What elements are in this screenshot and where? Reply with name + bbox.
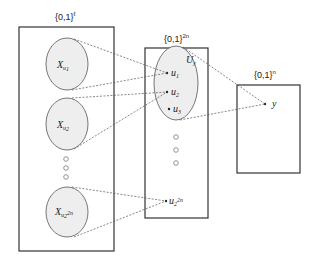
left-box-group: {0,1}ℓ Xu1 Xu2 Xu22n (19, 11, 114, 251)
set-ellipse-xu2 (46, 98, 88, 150)
middle-ellipsis-dots (174, 135, 179, 166)
set-ellipse-xu1 (46, 38, 88, 90)
point-u3 (168, 108, 170, 110)
map-xu2-top (72, 92, 167, 98)
point-label-y: y (271, 98, 277, 109)
right-box (237, 85, 300, 173)
left-ellipsis-dots (64, 157, 69, 180)
left-box-label: {0,1}ℓ (55, 11, 76, 22)
point-label-u22n: u22n (169, 195, 183, 207)
diagram-canvas: {0,1}ℓ Xu1 Xu2 Xu22n {0,1}2n Uy u1 u2 u3 (0, 0, 315, 265)
right-box-group: {0,1}n y (237, 69, 300, 173)
middle-box-label: {0,1}2n (164, 33, 189, 44)
map-xu22n-top (72, 187, 166, 201)
subset-label-uy: Uy (186, 54, 196, 66)
middle-box-group: {0,1}2n Uy u1 u2 u3 u22n (145, 33, 208, 218)
right-box-label: {0,1}n (254, 69, 276, 80)
